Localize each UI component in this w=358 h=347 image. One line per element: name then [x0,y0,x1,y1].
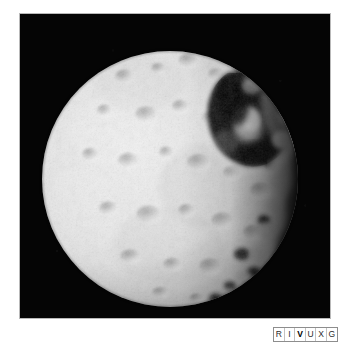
band-cell-v: V [295,328,306,341]
band-cell-g: G [327,328,337,341]
mimas-disc-illustration [20,14,330,318]
rivuxg-band-badge: R I V U X G [273,327,338,342]
photo-frame [19,13,331,319]
mimas-disc [20,14,330,318]
band-cell-u: U [306,328,317,341]
band-cell-x: X [316,328,327,341]
mimas-photograph [20,14,330,318]
band-cell-i: I [285,328,296,341]
band-cell-r: R [274,328,285,341]
astronomy-figure: R I V U X G [0,0,358,347]
